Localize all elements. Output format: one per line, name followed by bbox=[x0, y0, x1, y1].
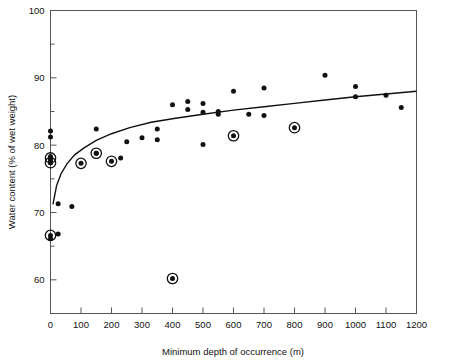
data-point bbox=[48, 135, 53, 140]
data-point bbox=[56, 201, 61, 206]
x-tick-label: 800 bbox=[287, 319, 303, 330]
y-axis-label: Water content (% of wet weight) bbox=[6, 95, 17, 229]
data-point bbox=[353, 94, 358, 99]
data-point-highlighted bbox=[79, 161, 84, 166]
data-point bbox=[118, 155, 123, 160]
x-tick-label: 100 bbox=[73, 319, 89, 330]
x-tick-label: 300 bbox=[134, 319, 150, 330]
data-point bbox=[323, 73, 328, 78]
data-point bbox=[231, 89, 236, 94]
data-point bbox=[246, 112, 251, 117]
x-tick-label: 1100 bbox=[376, 319, 396, 330]
data-point bbox=[185, 107, 190, 112]
y-tick-label: 100 bbox=[29, 5, 45, 16]
data-point bbox=[124, 139, 129, 144]
scatter-plot-figure: 60708090100 0100200300400500600700800900… bbox=[0, 0, 452, 364]
chart-background bbox=[0, 0, 452, 364]
data-point bbox=[216, 112, 221, 117]
y-tick-label: 70 bbox=[34, 207, 45, 218]
data-point-highlighted bbox=[94, 151, 99, 156]
data-point bbox=[384, 93, 389, 98]
y-tick-label: 60 bbox=[34, 274, 45, 285]
data-point bbox=[170, 102, 175, 107]
data-point bbox=[185, 99, 190, 104]
x-tick-label: 700 bbox=[256, 319, 272, 330]
data-point bbox=[94, 127, 99, 132]
data-point bbox=[201, 101, 206, 106]
data-point bbox=[262, 85, 267, 90]
data-point bbox=[155, 127, 160, 132]
x-tick-label: 200 bbox=[104, 319, 120, 330]
data-point-highlighted bbox=[109, 159, 114, 164]
data-point bbox=[48, 129, 53, 134]
data-point bbox=[140, 135, 145, 140]
data-point bbox=[262, 113, 267, 118]
data-point bbox=[353, 84, 358, 89]
x-tick-label: 500 bbox=[195, 319, 211, 330]
data-point bbox=[56, 232, 61, 237]
data-point-highlighted bbox=[292, 125, 297, 130]
y-tick-label: 90 bbox=[34, 72, 45, 83]
x-tick-label: 0 bbox=[48, 319, 53, 330]
data-point bbox=[399, 105, 404, 110]
data-point bbox=[201, 110, 206, 115]
x-tick-label: 1200 bbox=[406, 319, 427, 330]
y-tick-label: 80 bbox=[34, 140, 45, 151]
x-axis-label: Minimum depth of occurrence (m) bbox=[162, 346, 304, 357]
x-tick-label: 400 bbox=[165, 319, 181, 330]
data-point bbox=[201, 142, 206, 147]
x-tick-label: 900 bbox=[317, 319, 333, 330]
data-point-highlighted bbox=[48, 233, 53, 238]
data-point bbox=[155, 137, 160, 142]
data-point-highlighted bbox=[48, 160, 53, 165]
data-point-highlighted bbox=[231, 133, 236, 138]
data-point-highlighted bbox=[170, 276, 175, 281]
chart-canvas: 60708090100 0100200300400500600700800900… bbox=[0, 0, 452, 364]
x-tick-label: 1000 bbox=[345, 319, 366, 330]
data-point bbox=[69, 204, 74, 209]
x-tick-label: 600 bbox=[226, 319, 242, 330]
